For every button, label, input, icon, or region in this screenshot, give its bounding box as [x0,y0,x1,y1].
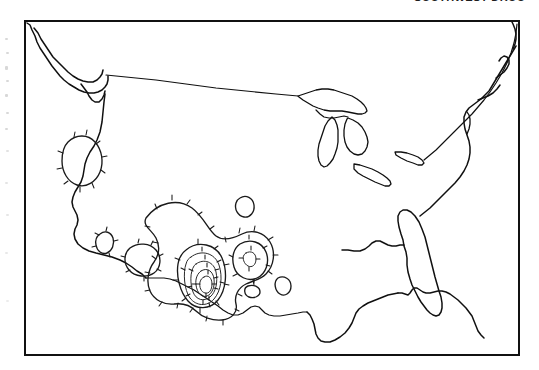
eastern-seaboard-layer [342,22,516,316]
contour-southeast-texas-oval [275,277,291,295]
saint-lawrence-border [424,24,517,160]
figure-title-text: SOUTHWEST DROUGHT [414,0,526,4]
contour-map-canvas [26,22,518,354]
contour-ring [245,285,260,297]
great-lakes-layer [298,24,517,186]
base-map-layer [27,23,484,342]
contour-ring-core [243,252,256,267]
contour-west-texas-bullseye [173,239,229,313]
lake-ontario [395,152,424,165]
canada-border-49th-parallel [106,75,298,96]
contour-ring [275,277,291,295]
contour-ring-2 [184,253,221,305]
map-frame [24,20,520,356]
contour-nevada-great-basin [57,130,107,192]
scan-artifact-marks [0,0,14,370]
florida-panhandle-coast [342,241,404,251]
lake-huron [344,118,368,155]
contour-ring [235,196,254,217]
contour-ring-outer [233,241,268,279]
hachure-ticks [57,130,107,192]
florida-peninsula-coast [398,210,442,316]
figure-title-clipped: SOUTHWEST DROUGHT [414,0,526,5]
lake-erie [354,164,391,186]
contour-kansas-oval [235,196,254,217]
mexico-border-southwest [146,278,307,316]
texas-gulf-coast [307,293,398,342]
chesapeake-bay [467,112,470,134]
contour-gulf-coast-oval [245,285,260,297]
contour-ring-3 [191,261,217,300]
hachure-ticks-core [239,246,260,271]
lake-michigan [318,117,338,167]
pacific-northwest-coast [27,23,108,93]
contour-ring-4 [196,269,214,296]
contour-ring-5-core [200,276,212,293]
lake-superior [298,89,367,114]
